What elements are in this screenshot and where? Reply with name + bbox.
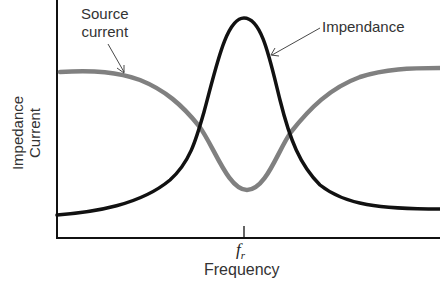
x-axis-label: Frequency [204, 261, 280, 278]
tick-sub: r [241, 249, 245, 261]
source-current-label-line2: current [81, 23, 129, 41]
source-current-annotation: Source current [81, 5, 129, 41]
impedance-curve [57, 18, 440, 215]
impedance-annotation: Impendance [322, 18, 405, 35]
y-axis-label-line1: Impedance [9, 73, 26, 193]
y-axis-label: Impedance Current [9, 73, 43, 193]
y-axis-label-line2: Current [26, 73, 43, 193]
source-current-arrow [108, 44, 124, 73]
resonant-frequency-label: fr [236, 240, 245, 261]
resonance-diagram [0, 0, 440, 286]
impedance-arrow [271, 28, 320, 56]
source-current-curve [60, 68, 440, 190]
source-current-label-line1: Source [81, 5, 129, 23]
